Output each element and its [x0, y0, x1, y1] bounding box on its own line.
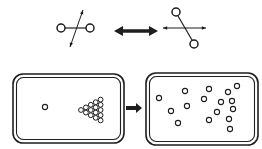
entropy-diagram	[0, 0, 262, 149]
diagram-canvas	[0, 0, 262, 149]
molecule-left	[57, 10, 94, 47]
molecule-right	[163, 8, 206, 48]
billiard-box-ordered	[13, 74, 124, 143]
break-arrow	[126, 103, 142, 113]
billiard-box-disordered	[146, 73, 258, 145]
equilibrium-double-arrow	[114, 26, 158, 36]
